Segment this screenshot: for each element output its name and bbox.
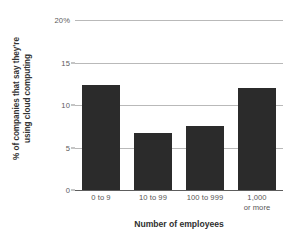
y-axis-title-line-1: % of companies that say they're: [12, 37, 23, 160]
bar: [82, 85, 121, 190]
x-axis-tick-label-line: 0 to 9: [75, 193, 127, 203]
bar: [134, 133, 173, 190]
y-axis-tick-label: 15: [61, 58, 70, 67]
bar-series: [75, 20, 283, 190]
x-axis-tick-label: 10 to 99: [127, 193, 179, 203]
bar-chart: % of companies that say they're using cl…: [0, 0, 292, 236]
y-axis-title-line-2: using cloud computing: [22, 37, 33, 160]
y-axis-tick-label: 20%: [55, 16, 71, 25]
y-axis-tick-label: 5: [66, 143, 70, 152]
x-axis-title: Number of employees: [75, 219, 283, 229]
y-axis-title: % of companies that say they're using cl…: [0, 0, 44, 196]
y-axis-tick-label: 0: [66, 186, 70, 195]
x-axis-tick-label: 0 to 9: [75, 193, 127, 203]
x-axis-tick-label: 1,000or more: [231, 193, 283, 212]
x-axis-tick-labels: 0 to 910 to 99100 to 9991,000or more: [75, 193, 283, 219]
x-axis-tick-label: 100 to 999: [179, 193, 231, 203]
bar: [238, 88, 277, 190]
plot-area: 05101520%: [75, 20, 283, 190]
x-axis-line: [75, 190, 283, 191]
x-axis-tick-label-line: or more: [231, 203, 283, 213]
x-axis-tick-label-line: 1,000: [231, 193, 283, 203]
bar: [186, 126, 225, 190]
y-axis-tick-label: 10: [61, 101, 70, 110]
x-axis-tick-label-line: 10 to 99: [127, 193, 179, 203]
x-axis-tick-label-line: 100 to 999: [179, 193, 231, 203]
